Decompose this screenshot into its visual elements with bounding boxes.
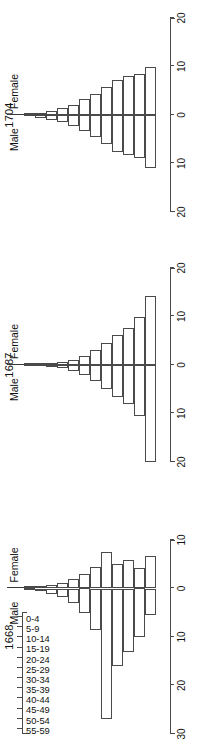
age-tick-30-34 [17, 677, 22, 678]
x-tick-label-30: 30 [176, 728, 187, 739]
bar-male-10-14 [123, 115, 134, 155]
bar-female-5-9 [134, 74, 145, 115]
bar-male-15-19 [112, 365, 123, 397]
age-tick-label-20-24: 20-24 [26, 655, 50, 665]
age-tick-55-59 [17, 728, 22, 729]
bar-female-10-14 [123, 560, 134, 588]
x-tick-0 [170, 364, 174, 365]
x-tick-label-0: 0 [176, 112, 187, 118]
bar-female-35-39 [68, 105, 79, 115]
age-tick-10-14 [17, 636, 22, 637]
panel-1687: 1687 Male Female 201001020 [0, 250, 221, 480]
bar-female-50-54 [35, 113, 46, 115]
bar-male-40-44 [57, 365, 68, 368]
age-tick-0-4 [17, 616, 22, 617]
bar-male-20-24 [101, 115, 112, 144]
bar-male-5-9 [134, 589, 145, 638]
age-axis-line [22, 612, 23, 734]
bar-female-40-44 [57, 362, 68, 365]
bar-female-0-4 [145, 67, 156, 115]
x-tick-label-0: 0 [176, 362, 187, 368]
bar-male-40-44 [57, 115, 68, 122]
bar-male-0-4 [145, 365, 156, 462]
bar-female-45-49 [46, 585, 57, 589]
x-tick-20 [170, 17, 174, 18]
x-tick-label-10: 10 [176, 158, 187, 169]
bar-female-10-14 [123, 76, 134, 115]
bar-female-30-34 [79, 574, 90, 589]
bar-male-25-29 [90, 365, 101, 381]
bar-female-20-24 [101, 343, 112, 365]
bar-female-35-39 [68, 579, 79, 589]
bar-male-15-19 [112, 115, 123, 152]
x-axis-cap-1 [170, 18, 175, 19]
plot-area-1704 [24, 18, 156, 212]
x-tick-label-10: 10 [176, 631, 187, 642]
population-pyramid-figure: 1704 Male Female 201001020 1687 Male Fem… [0, 0, 221, 752]
bar-female-45-49 [46, 363, 57, 365]
x-axis-1687 [170, 268, 171, 462]
x-tick-label-20: 20 [176, 680, 187, 691]
bar-male-45-49 [46, 365, 57, 367]
female-label-1687: Female [8, 324, 20, 359]
x-axis-cap-1 [170, 268, 175, 269]
bar-male-0-4 [145, 115, 156, 168]
bar-male-20-24 [101, 365, 112, 389]
bar-male-15-19 [112, 589, 123, 667]
plot-area-1687 [24, 268, 156, 462]
bar-female-40-44 [57, 583, 68, 589]
bar-female-25-29 [90, 94, 101, 115]
x-tick-label-20: 20 [176, 12, 187, 23]
bar-female-0-4 [145, 296, 156, 365]
age-tick-label-5-9: 5-9 [26, 624, 39, 634]
bar-female-5-9 [134, 568, 145, 589]
bar-female-15-19 [112, 80, 123, 115]
female-label-1668: Female [8, 547, 20, 582]
age-tick-label-0-4: 0-4 [26, 614, 39, 624]
age-tick-label-50-54: 50-54 [26, 716, 50, 726]
bar-male-10-14 [123, 365, 134, 404]
panel-title-1704: 1704 [3, 0, 15, 230]
x-tick-label-0: 0 [176, 586, 187, 592]
bar-female-55-59 [24, 113, 35, 115]
bar-female-25-29 [90, 567, 101, 588]
age-tick-label-15-19: 15-19 [26, 644, 50, 654]
age-axis: Age 0-45-910-1415-1920-2425-2930-3435-39… [0, 592, 110, 752]
age-tick-label-55-59: 55-59 [26, 726, 50, 736]
bar-male-50-54 [35, 115, 46, 118]
age-tick-15-19 [17, 647, 22, 648]
x-tick-label-20: 20 [176, 206, 187, 217]
x-tick-30 [170, 733, 174, 734]
age-tick-5-9 [17, 626, 22, 627]
age-tick-label-35-39: 35-39 [26, 685, 50, 695]
age-tick-50-54 [17, 718, 22, 719]
bar-female-35-39 [68, 360, 79, 365]
age-tick-40-44 [17, 697, 22, 698]
age-tick-label-10-14: 10-14 [26, 634, 50, 644]
bar-male-35-39 [68, 365, 79, 371]
age-tick-20-24 [17, 657, 22, 658]
bar-female-15-19 [112, 564, 123, 589]
bar-male-50-54 [35, 589, 46, 592]
bar-female-10-14 [123, 328, 134, 365]
bar-female-50-54 [35, 363, 46, 365]
bar-female-30-34 [79, 356, 90, 365]
bar-female-40-44 [57, 108, 68, 115]
bar-female-30-34 [79, 99, 90, 115]
x-tick-0 [170, 114, 174, 115]
age-axis-cap-1 [22, 612, 27, 613]
bar-male-0-4 [145, 589, 156, 616]
x-tick-20 [170, 461, 174, 462]
bar-female-5-9 [134, 317, 145, 365]
male-label-1704: Male [8, 128, 20, 151]
age-tick-25-29 [17, 667, 22, 668]
age-tick-label-45-49: 45-49 [26, 705, 50, 715]
x-axis-1704 [170, 18, 171, 212]
x-tick-20 [170, 211, 174, 212]
male-label-1687: Male [8, 378, 20, 401]
female-label-1704: Female [8, 74, 20, 109]
bar-female-20-24 [101, 552, 112, 588]
bar-female-20-24 [101, 87, 112, 115]
age-tick-35-39 [17, 687, 22, 688]
x-axis-cap-1 [170, 540, 175, 541]
